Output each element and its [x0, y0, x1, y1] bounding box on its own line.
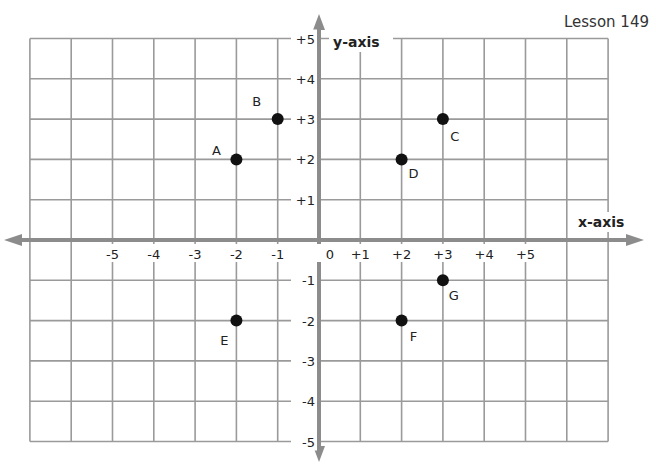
- point-label: A: [212, 143, 221, 158]
- point-label: D: [409, 166, 419, 181]
- axes: [4, 14, 644, 462]
- y-tick-label: +3: [296, 112, 315, 127]
- point-marker: [437, 113, 449, 125]
- x-tick-label: -3: [189, 247, 202, 262]
- point-marker: [396, 315, 408, 327]
- y-tick-label: -4: [302, 394, 315, 409]
- x-tick-label: +2: [392, 247, 411, 262]
- y-tick-label: +2: [296, 152, 315, 167]
- y-tick-label: -5: [302, 435, 315, 450]
- y-tick-label: -3: [302, 354, 315, 369]
- x-tick-label: +5: [516, 247, 535, 262]
- y-tick-label: +4: [296, 72, 315, 87]
- y-tick-label: +1: [296, 193, 315, 208]
- point-marker: [437, 274, 449, 286]
- point-label: B: [252, 94, 261, 109]
- point-label: C: [450, 129, 459, 144]
- lesson-number: Lesson 149: [564, 13, 649, 31]
- x-tick-label: +3: [433, 247, 452, 262]
- coordinate-grid-chart: -5-4-3-2-10+1+2+3+4+5+5+4+3+2+1-1-2-3-4-…: [0, 0, 656, 464]
- x-tick-label: -5: [106, 247, 119, 262]
- x-tick-label: -2: [230, 247, 243, 262]
- arrow-right-icon: [626, 234, 644, 246]
- arrow-up-icon: [313, 14, 325, 30]
- y-tick-label: -2: [302, 314, 315, 329]
- y-tick-label: -1: [302, 273, 315, 288]
- point-marker: [396, 153, 408, 165]
- point-marker: [272, 113, 284, 125]
- plotted-points: ABCDEFG: [212, 94, 459, 348]
- x-axis-label: x-axis: [578, 214, 624, 230]
- point-label: F: [410, 329, 417, 344]
- x-tick-label: +1: [351, 247, 370, 262]
- y-axis-label: y-axis: [333, 34, 380, 50]
- x-tick-label: +4: [475, 247, 494, 262]
- arrow-left-icon: [4, 234, 22, 246]
- coordinate-plane-worksheet: Lesson 149 -5-4-3-2-10+1+2+3+4+5+5+4+3+2…: [0, 0, 656, 464]
- x-tick-label: -1: [271, 247, 284, 262]
- y-tick-label: +5: [296, 32, 315, 47]
- x-tick-label: -4: [147, 247, 160, 262]
- point-label: G: [449, 288, 459, 303]
- x-tick-label: 0: [326, 247, 334, 262]
- point-label: E: [220, 333, 228, 348]
- point-marker: [230, 153, 242, 165]
- point-marker: [230, 315, 242, 327]
